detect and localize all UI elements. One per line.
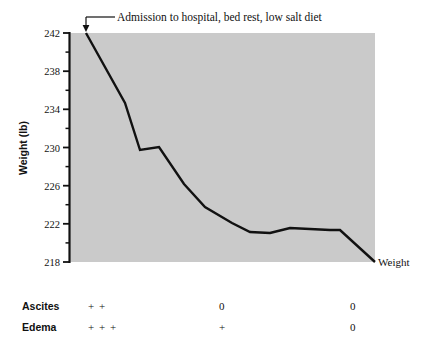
weight-chart-figure: 242 238 234 230 226 222 218 Weight (lb) … [0, 0, 438, 355]
annotation-arrow-icon [83, 25, 90, 32]
ascites-value-3: 0 [350, 296, 357, 317]
table-row-edema: Edema + + + + 0 [0, 317, 438, 338]
plot-area-background [70, 33, 375, 262]
y-tick-label-242: 242 [44, 28, 60, 39]
y-tick-label-238: 238 [44, 66, 60, 77]
weight-series-label: Weight [378, 256, 410, 268]
edema-value-2: + [219, 317, 226, 338]
clinical-findings-table: Ascites + + 0 0 Edema + + + + 0 [0, 296, 438, 338]
row-label-edema: Edema [22, 317, 56, 338]
y-tick-label-234: 234 [44, 104, 61, 115]
y-tick-label-230: 230 [44, 143, 60, 154]
y-tick-label-218: 218 [44, 257, 60, 268]
y-tick-label-222: 222 [44, 219, 60, 230]
edema-value-3: 0 [350, 317, 357, 338]
ascites-value-1: + + [88, 296, 106, 317]
admission-annotation-label: Admission to hospital, bed rest, low sal… [117, 11, 323, 24]
ascites-value-2: 0 [219, 296, 226, 317]
y-tick-label-226: 226 [44, 181, 60, 192]
row-label-ascites: Ascites [22, 296, 59, 317]
table-row-ascites: Ascites + + 0 0 [0, 296, 438, 317]
y-axis-title: Weight (lb) [17, 121, 29, 175]
edema-value-1: + + + [88, 317, 117, 338]
